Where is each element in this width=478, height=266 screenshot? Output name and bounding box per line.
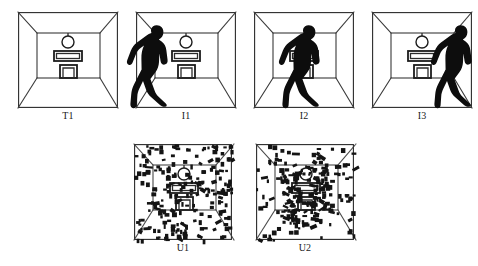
lamp-globe: [416, 36, 428, 48]
noise-block: [199, 213, 203, 216]
noise-block: [329, 223, 331, 226]
noise-block: [157, 229, 160, 233]
noise-block: [198, 235, 201, 237]
noise-block: [292, 152, 300, 155]
noise-block: [197, 184, 199, 186]
noise-block: [207, 147, 209, 150]
panel-i1: [136, 12, 236, 108]
panel-caption-t1: T1: [18, 110, 118, 122]
noise-block: [161, 199, 163, 201]
noise-block: [202, 149, 204, 152]
noise-block: [289, 231, 294, 235]
noise-block: [321, 187, 325, 191]
noise-block: [158, 236, 160, 238]
noise-block: [228, 157, 231, 161]
noise-block: [290, 222, 292, 225]
noise-block: [208, 215, 212, 218]
noise-block: [221, 201, 224, 203]
noise-block: [312, 153, 316, 157]
noise-block: [164, 224, 166, 229]
noise-block: [308, 167, 311, 170]
noise-block: [185, 205, 189, 207]
noise-block: [257, 168, 260, 172]
noise-block: [221, 162, 225, 167]
noise-block: [139, 164, 141, 167]
noise-block: [256, 188, 258, 191]
noise-block: [200, 181, 204, 184]
noise-block: [202, 170, 206, 173]
noise-block: [302, 172, 305, 175]
noise-block: [284, 162, 287, 166]
noise-block: [145, 159, 149, 164]
noise-block: [163, 189, 167, 191]
noise-block: [210, 201, 214, 204]
noise-block: [140, 219, 144, 222]
panel-frame: [19, 13, 118, 108]
noise-block: [222, 188, 224, 192]
noise-block: [167, 190, 171, 193]
noise-block: [218, 200, 221, 204]
noise-block: [348, 197, 352, 202]
noise-block: [142, 172, 146, 176]
noise-block: [290, 217, 295, 219]
noise-block: [207, 193, 209, 196]
noise-block: [337, 212, 340, 215]
noise-block: [225, 192, 228, 196]
noise-block: [185, 173, 190, 177]
noise-block: [211, 189, 215, 191]
noise-block: [302, 220, 304, 224]
noise-block: [227, 216, 230, 220]
noise-block: [317, 148, 321, 150]
noise-block: [196, 177, 199, 180]
noise-block: [148, 209, 150, 212]
noise-block: [154, 169, 157, 171]
noise-block: [321, 178, 324, 183]
noise-block: [267, 179, 269, 183]
noise-block: [149, 151, 152, 155]
noise-block: [334, 173, 339, 176]
noise-block: [183, 160, 187, 164]
noise-block: [309, 172, 311, 174]
noise-block: [135, 155, 139, 157]
noise-block: [134, 176, 138, 180]
noise-block: [137, 171, 141, 176]
noise-block: [319, 219, 323, 224]
stimuli-figure: T1I1I2I3U1U2: [0, 0, 478, 266]
noise-block: [343, 163, 348, 167]
noise-block: [293, 195, 296, 199]
noise-block: [192, 204, 195, 207]
panel-scene-i1: [136, 12, 236, 108]
noise-block: [291, 186, 296, 190]
noise-block: [180, 188, 183, 192]
noise-block: [258, 206, 263, 210]
noise-block: [297, 218, 300, 222]
noise-block: [328, 185, 332, 190]
noise-block: [320, 236, 322, 239]
noise-block: [228, 180, 231, 184]
noise-block: [291, 215, 294, 217]
panel-scene-u1: [134, 144, 232, 240]
noise-block: [199, 220, 202, 225]
noise-block: [272, 230, 277, 235]
panel-scene-i2: [254, 12, 354, 108]
noise-block: [141, 181, 145, 186]
noise-block: [316, 186, 318, 191]
noise-block: [179, 211, 182, 215]
noise-block: [224, 183, 227, 187]
noise-block: [294, 230, 299, 235]
noise-block: [169, 194, 172, 199]
noise-block: [262, 195, 264, 200]
noise-block: [295, 224, 298, 229]
noise-block: [215, 170, 219, 175]
panel-scene-i3: [372, 12, 472, 108]
noise-block: [292, 209, 294, 213]
noise-block: [171, 154, 175, 157]
noise-block: [210, 206, 214, 209]
noise-block: [295, 172, 300, 176]
noise-block: [176, 223, 178, 226]
noise-block: [180, 230, 182, 234]
panel-caption-u1: U1: [134, 242, 232, 254]
noise-block: [329, 193, 332, 196]
noise-block: [195, 155, 199, 158]
noise-block: [315, 193, 318, 195]
